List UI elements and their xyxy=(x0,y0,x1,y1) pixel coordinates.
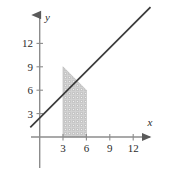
y-tick-label-12: 12 xyxy=(22,37,33,49)
coordinate-plane-svg: 12 9 6 3 3 6 9 12 y x xyxy=(0,0,171,176)
y-tick-label-3: 3 xyxy=(28,108,34,120)
x-tick-label-3: 3 xyxy=(60,142,66,154)
y-tick-label-6: 6 xyxy=(28,84,34,96)
graph-figure: 12 9 6 3 3 6 9 12 y x xyxy=(0,0,171,176)
x-tick-label-9: 9 xyxy=(107,142,113,154)
x-tick-label-12: 12 xyxy=(128,142,139,154)
x-tick-label-6: 6 xyxy=(84,142,90,154)
plot-line xyxy=(30,7,150,127)
shaded-region xyxy=(63,67,86,137)
x-axis-label: x xyxy=(147,116,153,128)
y-axis-label: y xyxy=(44,11,50,23)
y-tick-label-9: 9 xyxy=(28,61,34,73)
